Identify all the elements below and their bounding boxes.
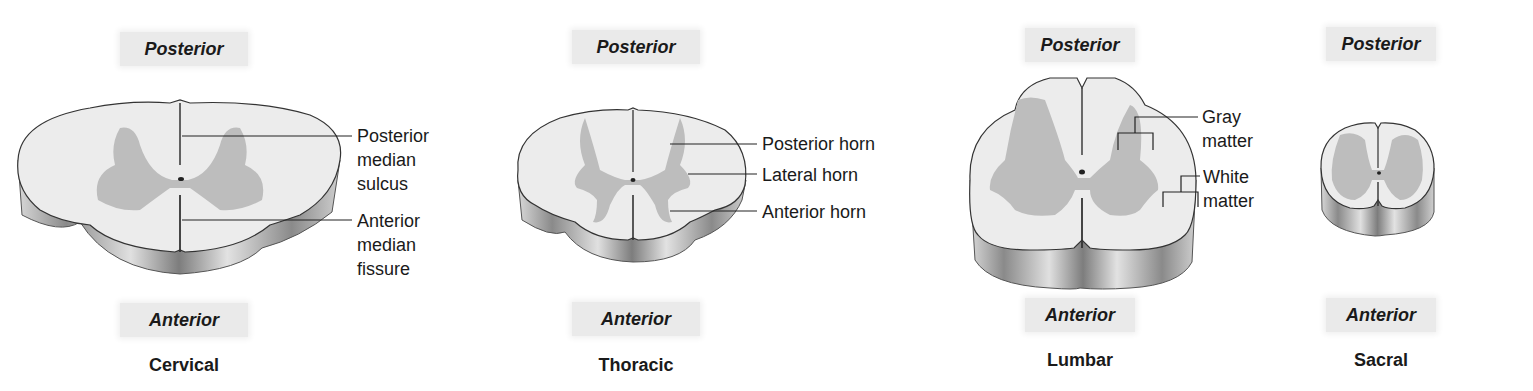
thoracic-cross-section [518, 108, 757, 262]
callout-line: White [1203, 165, 1254, 189]
lumbar-posterior-label: Posterior [1025, 28, 1135, 62]
callout-line: matter [1203, 189, 1254, 213]
sacral-anterior-label: Anterior [1326, 298, 1436, 332]
thoracic-posterior-label: Posterior [572, 30, 700, 64]
sacral-posterior-label: Posterior [1326, 27, 1436, 61]
thoracic-anterior-label: Anterior [572, 302, 700, 336]
thoracic-region-label: Thoracic [572, 355, 700, 376]
callout-anterior-median-fissure: Anterior median fissure [357, 209, 420, 281]
callout-line: Posterior [357, 124, 429, 148]
callout-line: sulcus [357, 172, 429, 196]
cervical-posterior-label: Posterior [120, 32, 248, 66]
callout-gray-matter: Gray matter [1202, 105, 1253, 153]
callout-line: Anterior [357, 209, 420, 233]
callout-line: Gray [1202, 105, 1253, 129]
lumbar-region-label: Lumbar [1025, 350, 1135, 371]
sacral-cross-section [1321, 123, 1434, 236]
callout-line: median [357, 148, 429, 172]
callout-white-matter: White matter [1203, 165, 1254, 213]
cervical-anterior-label: Anterior [120, 303, 248, 337]
lumbar-anterior-label: Anterior [1025, 298, 1135, 332]
callout-line: fissure [357, 257, 420, 281]
cervical-cross-section [18, 100, 352, 274]
lumbar-cross-section [970, 78, 1200, 289]
callout-line: matter [1202, 129, 1253, 153]
sacral-region-label: Sacral [1326, 350, 1436, 371]
callout-posterior-median-sulcus: Posterior median sulcus [357, 124, 429, 196]
callout-line: median [357, 233, 420, 257]
cervical-region-label: Cervical [120, 355, 248, 376]
callout-lateral-horn: Lateral horn [762, 163, 858, 187]
callout-posterior-horn: Posterior horn [762, 132, 875, 156]
callout-anterior-horn: Anterior horn [762, 200, 866, 224]
